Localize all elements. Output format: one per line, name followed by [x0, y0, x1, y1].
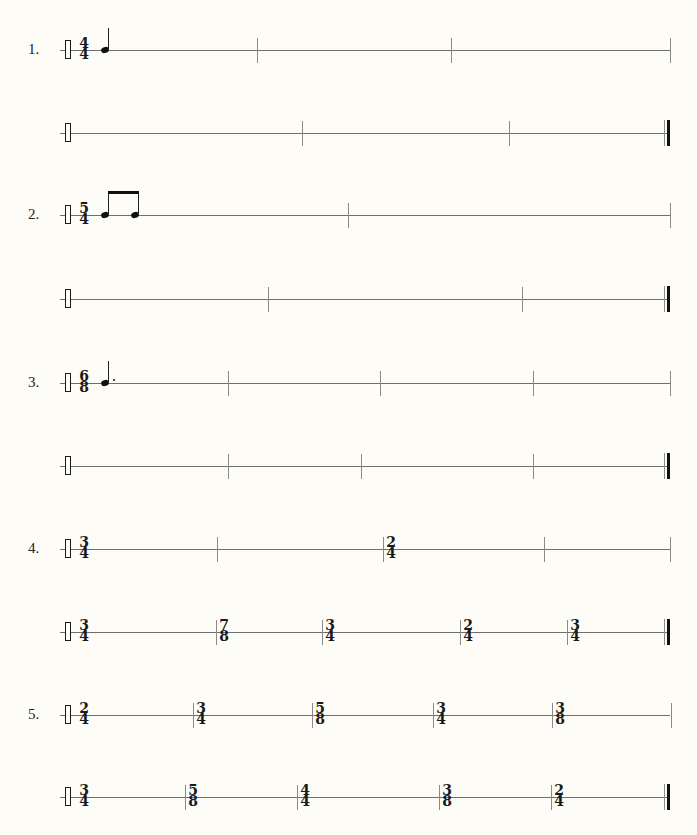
exercise-number: 4.	[28, 540, 39, 557]
barline	[228, 371, 229, 396]
time-signature: 24	[78, 703, 90, 725]
beam	[108, 191, 139, 194]
percussion-clef-icon	[65, 123, 71, 142]
time-signature-bottom: 4	[78, 714, 90, 725]
barline	[522, 287, 523, 312]
final-barline-thin	[664, 619, 665, 645]
time-signature-bottom: 4	[78, 548, 90, 559]
percussion-clef-icon	[65, 205, 71, 224]
exercise-number: 3.	[28, 374, 39, 391]
time-signature-change: 38	[441, 785, 453, 807]
time-signature-change: 24	[553, 785, 565, 807]
barline	[312, 703, 313, 728]
barline	[193, 703, 194, 728]
time-signature-bottom: 8	[441, 796, 453, 807]
barline	[671, 703, 672, 728]
barline	[670, 537, 671, 562]
barline	[185, 785, 186, 810]
barline	[670, 371, 671, 396]
barline	[533, 454, 534, 479]
barline	[544, 537, 545, 562]
final-barline-thick	[667, 286, 670, 312]
time-signature-change: 44	[299, 785, 311, 807]
time-signature-bottom: 8	[78, 382, 90, 393]
barline	[217, 537, 218, 562]
staff-line	[60, 715, 670, 716]
final-barline-thin	[664, 453, 665, 479]
barline	[567, 620, 568, 645]
barline	[216, 620, 217, 645]
barline	[533, 371, 534, 396]
exercise-number: 5.	[28, 706, 39, 723]
time-signature-change: 78	[218, 620, 230, 642]
barline	[439, 785, 440, 810]
time-signature-change: 34	[569, 620, 581, 642]
barline	[257, 38, 258, 63]
time-signature: 34	[78, 620, 90, 642]
staff-line	[60, 797, 667, 798]
time-signature: 34	[78, 785, 90, 807]
time-signature-change: 34	[324, 620, 336, 642]
note-stem	[108, 192, 109, 214]
time-signature: 44	[78, 38, 90, 60]
barline	[670, 203, 671, 228]
time-signature-bottom: 4	[299, 796, 311, 807]
final-barline-thick	[667, 120, 670, 146]
barline	[302, 121, 303, 146]
time-signature-bottom: 4	[462, 631, 474, 642]
percussion-clef-icon	[65, 373, 71, 392]
barline	[451, 38, 452, 63]
barline	[348, 203, 349, 228]
exercise-number: 1.	[28, 41, 39, 58]
percussion-clef-icon	[65, 289, 71, 308]
cut-off-heading-text: · · · · ·	[30, 0, 76, 6]
barline	[552, 703, 553, 728]
percussion-clef-icon	[65, 787, 71, 806]
percussion-clef-icon	[65, 705, 71, 724]
time-signature-bottom: 4	[569, 631, 581, 642]
barline	[460, 620, 461, 645]
time-signature-bottom: 8	[554, 714, 566, 725]
time-signature-bottom: 4	[324, 631, 336, 642]
note-stem	[138, 192, 139, 214]
staff-line	[60, 50, 670, 51]
augmentation-dot-icon	[113, 379, 115, 381]
final-barline-thin	[664, 120, 665, 146]
final-barline-thick	[667, 619, 670, 645]
staff-line	[60, 383, 670, 384]
percussion-clef-icon	[65, 539, 71, 558]
time-signature-bottom: 4	[78, 49, 90, 60]
exercise-number: 2.	[28, 206, 39, 223]
time-signature-bottom: 8	[314, 714, 326, 725]
barline	[509, 121, 510, 146]
final-barline-thin	[664, 784, 665, 810]
time-signature: 68	[78, 371, 90, 393]
barline	[228, 454, 229, 479]
time-signature: 54	[78, 203, 90, 225]
barline	[297, 785, 298, 810]
time-signature-bottom: 4	[78, 631, 90, 642]
time-signature-bottom: 4	[435, 714, 447, 725]
note-stem	[108, 28, 109, 49]
barline	[433, 703, 434, 728]
barline	[383, 537, 384, 562]
barline	[551, 785, 552, 810]
staff-line	[60, 466, 667, 467]
percussion-clef-icon	[65, 456, 71, 475]
time-signature-change: 24	[385, 537, 397, 559]
time-signature-bottom: 4	[78, 796, 90, 807]
time-signature: 34	[78, 537, 90, 559]
staff-line	[60, 133, 667, 134]
time-signature-change: 38	[554, 703, 566, 725]
time-signature-bottom: 4	[195, 714, 207, 725]
time-signature-change: 24	[462, 620, 474, 642]
note-stem	[108, 361, 109, 382]
barline	[322, 620, 323, 645]
staff-line	[60, 215, 670, 216]
time-signature-change: 34	[195, 703, 207, 725]
barline	[380, 371, 381, 396]
barline	[670, 38, 671, 63]
time-signature-change: 58	[187, 785, 199, 807]
final-barline-thick	[667, 453, 670, 479]
time-signature-bottom: 8	[187, 796, 199, 807]
